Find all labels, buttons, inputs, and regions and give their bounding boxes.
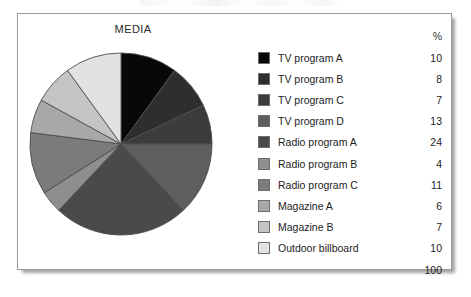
legend-item[interactable]: Radio program C11 (258, 174, 444, 195)
legend-item-label: Radio program A (278, 136, 416, 148)
legend-item-label: Magazine A (278, 200, 416, 212)
legend-item[interactable]: Magazine A6 (258, 195, 444, 216)
legend-percent-header: % (433, 30, 442, 42)
chart-figure-frame: MEDIA % TV program A10TV program B8TV pr… (17, 13, 452, 270)
legend-item[interactable]: Outdoor billboard10 (258, 238, 444, 259)
legend-color-swatch (258, 94, 270, 106)
legend-color-swatch (258, 200, 270, 212)
legend-item-value: 7 (416, 94, 444, 106)
legend-color-swatch (258, 73, 270, 85)
pie-chart-svg (21, 44, 221, 244)
legend-item-label: Radio program B (278, 158, 416, 170)
legend-item[interactable]: Magazine B7 (258, 217, 444, 238)
legend: % TV program A10TV program B8TV program … (258, 30, 444, 281)
legend-color-swatch (258, 221, 270, 233)
legend-item-label: TV program D (278, 115, 416, 127)
legend-item-value: 10 (416, 242, 444, 254)
legend-item-value: 6 (416, 200, 444, 212)
legend-color-swatch (258, 158, 270, 170)
legend-item[interactable]: TV program B8 (258, 68, 444, 89)
legend-item[interactable]: TV program C7 (258, 89, 444, 110)
legend-total-row: 100 (258, 259, 444, 281)
legend-item-value: 8 (416, 73, 444, 85)
legend-item-label: TV program B (278, 73, 416, 85)
legend-row-list: TV program A10TV program B8TV program C7… (258, 47, 444, 259)
legend-item-value: 7 (416, 221, 444, 233)
legend-color-swatch (258, 136, 270, 148)
legend-item-label: TV program C (278, 94, 416, 106)
legend-item[interactable]: TV program D13 (258, 111, 444, 132)
legend-color-swatch (258, 179, 270, 191)
legend-item-label: Magazine B (278, 221, 416, 233)
pie-chart (21, 44, 221, 244)
screenshot-root: MEDIA % TV program A10TV program B8TV pr… (0, 0, 471, 297)
legend-item[interactable]: Radio program B4 (258, 153, 444, 174)
legend-header: % (258, 30, 444, 47)
legend-color-swatch (258, 242, 270, 254)
legend-item-label: Outdoor billboard (278, 242, 416, 254)
legend-item-value: 13 (416, 115, 444, 127)
legend-item-value: 4 (416, 158, 444, 170)
legend-item-value: 10 (416, 52, 444, 64)
legend-item-value: 11 (416, 179, 444, 191)
legend-item-value: 24 (416, 136, 444, 148)
legend-total-value: 100 (416, 264, 444, 276)
legend-color-swatch (258, 52, 270, 64)
legend-item-label: Radio program C (278, 179, 416, 191)
legend-item[interactable]: TV program A10 (258, 47, 444, 68)
cropped-row-artifact (140, 0, 340, 6)
legend-item-label: TV program A (278, 52, 416, 64)
chart-title: MEDIA (18, 23, 248, 35)
legend-item[interactable]: Radio program A24 (258, 132, 444, 153)
legend-color-swatch (258, 115, 270, 127)
